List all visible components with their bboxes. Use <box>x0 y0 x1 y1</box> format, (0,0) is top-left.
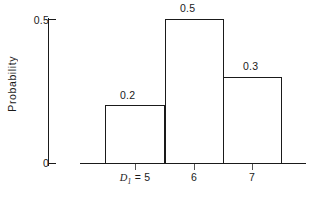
x-label-variable: D <box>120 172 128 183</box>
y-tick-label-0-5: 0.5 <box>34 15 49 26</box>
x-tick-label-3: 7 <box>221 172 283 183</box>
x-label-rest: 6 <box>191 171 197 183</box>
x-tick-mark-2 <box>194 164 195 170</box>
bar-value-label-3: 0.3 <box>243 61 258 72</box>
y-axis-line <box>48 18 49 166</box>
probability-histogram-figure: 0.5 0 Probability 0.2 0.5 0.3 D1 = 5 6 7 <box>0 0 323 200</box>
x-label-rest: = 5 <box>132 171 151 183</box>
x-tick-mark-1 <box>135 164 136 170</box>
y-tick-label-0: 0 <box>43 158 49 169</box>
x-tick-label-2: 6 <box>163 172 225 183</box>
y-tick-mark-upper <box>49 19 56 20</box>
y-tick-mark-lower <box>49 163 56 164</box>
bar-value-label-1: 0.2 <box>120 90 135 101</box>
bar-category-1 <box>105 105 165 164</box>
x-label-rest: 7 <box>249 171 255 183</box>
x-tick-label-1: D1 = 5 <box>104 172 166 187</box>
bar-category-2 <box>165 19 224 164</box>
x-tick-mark-3 <box>252 164 253 170</box>
y-axis-title: Probability <box>6 56 20 112</box>
bar-value-label-2: 0.5 <box>180 3 195 14</box>
bar-category-3 <box>223 77 282 164</box>
